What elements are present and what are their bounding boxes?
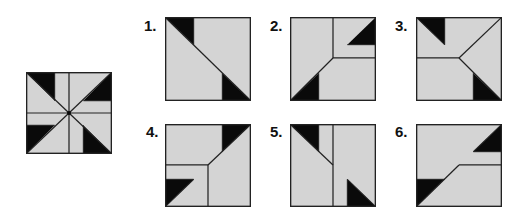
option-label-3: 3. [395,18,408,33]
option-3-figure[interactable] [416,17,502,101]
option-label-5: 5. [270,124,283,139]
option-label-6: 6. [395,124,408,139]
option-1-graphic [165,17,251,101]
option-4-graphic [165,124,251,207]
option-5-figure[interactable] [290,124,376,207]
option-6-graphic [416,124,502,207]
reference-figure [26,72,112,154]
option-5-graphic [290,124,376,207]
option-label-2: 2. [270,18,283,33]
option-3-graphic [416,17,502,101]
option-1-figure[interactable] [165,17,251,101]
option-label-4: 4. [146,124,159,139]
option-2-graphic [290,17,376,101]
option-4-figure[interactable] [165,124,251,207]
option-6-figure[interactable] [416,124,502,207]
option-label-1: 1. [144,18,157,33]
option-2-figure[interactable] [290,17,376,101]
reference-square-graphic [26,72,112,154]
